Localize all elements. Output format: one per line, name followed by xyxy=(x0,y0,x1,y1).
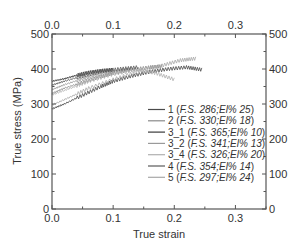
x-axis-title: True strain xyxy=(133,228,185,240)
y-tick-label: 300 xyxy=(31,98,49,110)
y-tick-label-right: 0 xyxy=(269,203,275,215)
x-axis-bottom: 0.00.10.20.3 xyxy=(44,205,266,224)
stress-strain-chart: 0.00.10.20.3 0.00.10.20.3 01002003004005… xyxy=(0,0,303,252)
legend-entry-2: 2 (F.S. 330;El% 18) xyxy=(168,115,254,126)
x-tick-label-top: 0.3 xyxy=(228,19,243,31)
y-axis-title: True stress (MPa) xyxy=(11,77,23,165)
y-tick-label-right: 400 xyxy=(269,63,287,75)
legend-entry-3_1: 3_1 (F.S. 365;El% 10) xyxy=(168,127,265,138)
y-tick-label-right: 100 xyxy=(269,168,287,180)
y-tick-label-right: 500 xyxy=(269,28,287,40)
legend-entry-5: 5 (F.S. 297;El% 24) xyxy=(168,172,254,183)
y-tick-label: 500 xyxy=(31,28,49,40)
legend: 1 (F.S. 286;El% 25)2 (F.S. 330;El% 18)3_… xyxy=(148,104,265,183)
x-tick-label-top: 0.2 xyxy=(167,19,182,31)
y-tick-label-right: 300 xyxy=(269,98,287,110)
legend-entry-3_2: 3_2 (F.S. 341;El% 13) xyxy=(168,138,265,149)
legend-entry-4: 4 (F.S. 354;El% 14) xyxy=(168,161,254,172)
legend-entry-1: 1 (F.S. 286;El% 25) xyxy=(168,104,254,115)
data-curves xyxy=(52,57,202,110)
curve-3_4 xyxy=(52,68,174,95)
y-tick-label: 0 xyxy=(43,203,49,215)
x-tick-label: 0.2 xyxy=(167,212,182,224)
y-tick-label: 400 xyxy=(31,63,49,75)
y-tick-label: 200 xyxy=(31,133,49,145)
y-tick-label-right: 200 xyxy=(269,133,287,145)
x-tick-label: 0.3 xyxy=(228,212,243,224)
x-tick-label: 0.1 xyxy=(105,212,120,224)
legend-entry-3_4: 3_4 (F.S. 326;El% 20) xyxy=(168,149,265,160)
x-axis-top: 0.00.10.20.3 xyxy=(44,19,266,38)
y-tick-label: 100 xyxy=(31,168,49,180)
x-tick-label-top: 0.1 xyxy=(105,19,120,31)
